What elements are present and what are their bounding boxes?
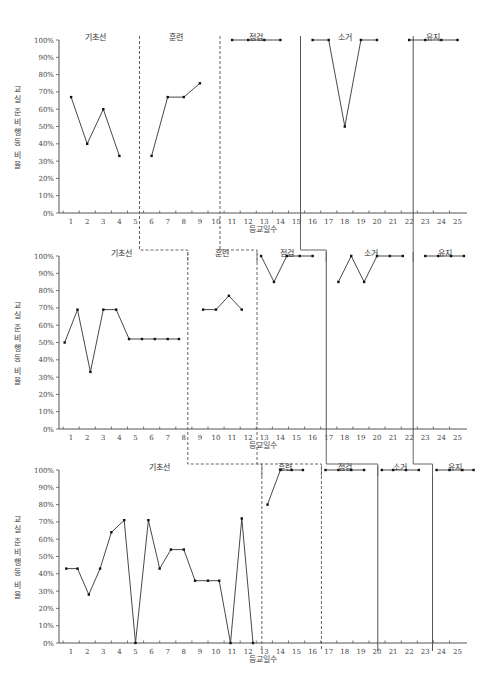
data-point xyxy=(328,39,330,41)
data-point xyxy=(286,255,288,257)
x-tick-label: 24 xyxy=(437,648,446,656)
x-tick-label: 4 xyxy=(117,218,122,226)
y-tick-label: 20% xyxy=(38,175,54,183)
data-line xyxy=(71,97,119,156)
data-point xyxy=(290,469,292,471)
y-tick-label: 70% xyxy=(38,518,54,526)
data-point xyxy=(102,108,104,110)
x-tick-label: 17 xyxy=(324,648,333,656)
x-tick-label: 15 xyxy=(292,648,301,656)
data-point xyxy=(194,580,196,582)
data-point xyxy=(70,96,72,98)
x-tick-label: 24 xyxy=(437,434,446,442)
data-point xyxy=(435,469,437,471)
data-point xyxy=(178,338,180,340)
phase-label: 훈련 xyxy=(169,32,183,42)
data-point xyxy=(134,642,136,644)
data-point xyxy=(99,567,101,569)
data-point xyxy=(241,517,243,519)
x-tick-label: 15 xyxy=(292,218,301,226)
data-point xyxy=(118,155,120,157)
x-tick-label: 2 xyxy=(85,648,89,656)
x-tick-label: 6 xyxy=(149,648,154,656)
data-point xyxy=(405,469,407,471)
y-tick-label: 40% xyxy=(38,356,54,364)
x-tick-label: 6 xyxy=(149,434,154,442)
y-tick-label: 70% xyxy=(38,88,54,96)
data-point xyxy=(311,255,313,257)
y-tick-label: 100% xyxy=(34,467,54,475)
x-axis-title: 등교일수 xyxy=(249,441,277,450)
data-point xyxy=(202,308,204,310)
y-tick-label: 10% xyxy=(38,408,54,416)
data-point xyxy=(440,39,442,41)
phase-label: 소거 xyxy=(338,33,352,42)
phase-label: 기초선 xyxy=(111,249,132,258)
phase-label: 소거 xyxy=(364,249,378,258)
x-tick-label: 7 xyxy=(165,218,169,226)
x-tick-label: 18 xyxy=(340,648,349,656)
x-tick-label: 1 xyxy=(69,434,73,442)
x-tick-label: 8 xyxy=(182,218,186,226)
x-tick-label: 17 xyxy=(324,434,333,442)
phase-label: 유지 xyxy=(438,249,452,258)
y-tick-label: 0% xyxy=(43,210,54,218)
x-tick-label: 5 xyxy=(133,434,137,442)
data-point xyxy=(158,567,160,569)
x-tick-label: 1 xyxy=(69,648,73,656)
data-point xyxy=(76,308,78,310)
y-tick-label: 50% xyxy=(38,339,54,347)
y-tick-label: 20% xyxy=(38,391,54,399)
x-tick-label: 19 xyxy=(356,434,365,442)
data-point xyxy=(147,519,149,521)
data-point xyxy=(150,155,152,157)
data-line xyxy=(261,256,313,282)
x-tick-label: 20 xyxy=(373,648,382,656)
y-tick-label: 20% xyxy=(38,605,54,613)
x-tick-label: 7 xyxy=(165,648,169,656)
data-point xyxy=(218,580,220,582)
x-tick-label: 25 xyxy=(453,218,462,226)
data-point xyxy=(266,503,268,505)
data-point xyxy=(110,531,112,533)
y-tick-label: 80% xyxy=(38,71,54,79)
x-tick-label: 23 xyxy=(421,434,430,442)
x-tick-label: 11 xyxy=(228,434,237,442)
x-tick-label: 3 xyxy=(101,434,105,442)
y-tick-label: 60% xyxy=(38,106,54,114)
y-tick-label: 90% xyxy=(38,54,54,62)
multiple-baseline-chart: 0%10%20%30%40%50%60%70%80%90%100%1234567… xyxy=(0,0,486,680)
y-tick-label: 50% xyxy=(38,123,54,131)
data-point xyxy=(102,308,104,310)
y-tick-label: 30% xyxy=(38,374,54,382)
data-line xyxy=(203,296,242,310)
x-tick-label: 17 xyxy=(324,218,333,226)
x-tick-label: 16 xyxy=(308,648,317,656)
data-point xyxy=(167,96,169,98)
x-tick-label: 20 xyxy=(373,434,382,442)
x-tick-label: 16 xyxy=(308,218,317,226)
x-tick-label: 15 xyxy=(292,434,301,442)
y-tick-label: 100% xyxy=(34,37,54,45)
data-line xyxy=(65,310,179,372)
x-tick-label: 6 xyxy=(149,218,154,226)
data-point xyxy=(456,39,458,41)
data-point xyxy=(463,255,465,257)
x-tick-label: 19 xyxy=(356,218,365,226)
data-point xyxy=(65,567,67,569)
data-point xyxy=(448,469,450,471)
y-tick-label: 30% xyxy=(38,158,54,166)
data-point xyxy=(402,255,404,257)
data-point xyxy=(279,39,281,41)
x-tick-label: 1 xyxy=(69,218,73,226)
y-tick-label: 0% xyxy=(43,426,54,434)
data-point xyxy=(199,82,201,84)
x-tick-label: 5 xyxy=(133,648,137,656)
x-tick-label: 8 xyxy=(182,434,186,442)
x-tick-label: 11 xyxy=(228,648,237,656)
data-point xyxy=(89,371,91,373)
x-tick-label: 21 xyxy=(389,434,398,442)
y-tick-label: 30% xyxy=(38,588,54,596)
y-tick-label: 10% xyxy=(38,622,54,630)
y-axis-title: 교실준비행동비율 xyxy=(14,85,21,170)
